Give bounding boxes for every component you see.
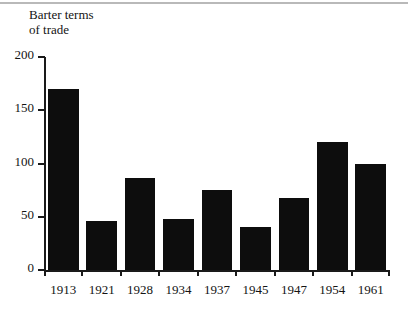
x-axis-label-1947: 1947 [275, 282, 313, 298]
x-tick-1945 [274, 270, 276, 276]
plot-area: 050100150200 191319211928193419371945194… [44, 57, 390, 270]
x-axis-label-1913: 1913 [44, 282, 82, 298]
x-tick-1934 [197, 270, 199, 276]
y-tick-100: 100 [38, 163, 45, 165]
x-tick-1954 [351, 270, 353, 276]
bar-1928 [125, 178, 156, 270]
x-axis-label-1961: 1961 [352, 282, 390, 298]
x-tick-start [44, 270, 46, 276]
y-tick-label-200: 200 [0, 47, 34, 63]
y-tick-label-100: 100 [0, 154, 34, 170]
x-tick-1913 [81, 270, 83, 276]
x-tick-1928 [158, 270, 160, 276]
y-tick-label-0: 0 [0, 260, 34, 276]
x-axis-label-1934: 1934 [159, 282, 197, 298]
bar-1954 [317, 142, 348, 270]
bar-1945 [240, 227, 271, 270]
bar-1937 [202, 190, 233, 270]
bar-1921 [86, 221, 117, 270]
x-tick-1961 [388, 270, 390, 276]
bar-1934 [163, 219, 194, 270]
x-axis-label-1945: 1945 [236, 282, 274, 298]
x-axis-label-1954: 1954 [313, 282, 351, 298]
bar-1961 [355, 164, 386, 271]
y-tick-200: 200 [38, 56, 45, 58]
x-axis-line [44, 270, 390, 272]
x-tick-1937 [235, 270, 237, 276]
y-tick-150: 150 [38, 109, 45, 111]
y-tick-label-150: 150 [0, 100, 34, 116]
x-tick-1947 [312, 270, 314, 276]
x-axis-label-1928: 1928 [121, 282, 159, 298]
y-tick-50: 50 [38, 216, 45, 218]
x-axis-label-1937: 1937 [198, 282, 236, 298]
x-axis-label-1921: 1921 [82, 282, 120, 298]
top-rule-divider [0, 2, 408, 4]
chart-figure: Barter terms of trade 050100150200 19131… [0, 0, 408, 309]
bar-1913 [48, 89, 79, 270]
y-tick-label-50: 50 [0, 207, 34, 223]
bar-1947 [279, 198, 310, 270]
chart-title: Barter terms of trade [29, 7, 169, 37]
x-tick-1921 [120, 270, 122, 276]
